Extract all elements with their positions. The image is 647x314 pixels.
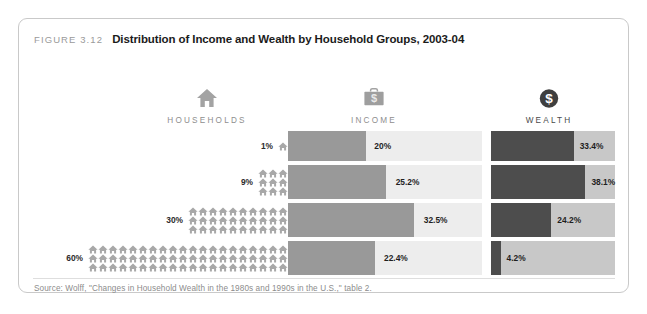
house-icon-grid <box>88 245 288 272</box>
house-icon-row <box>188 216 288 225</box>
households-pictogram-9: 9% <box>241 165 288 199</box>
house-icon-row <box>258 169 288 178</box>
table-row: 9% 25.2% 38.1% <box>19 165 630 199</box>
svg-text:$: $ <box>545 91 553 106</box>
chart-rows: 1% 20% 33.4% 9% 25.2% <box>19 131 630 271</box>
income-bar-track: 25.2% <box>288 165 482 199</box>
table-row: 30% 32.5% 24.2% <box>19 203 630 237</box>
households-percent-label: 30% <box>166 215 183 225</box>
income-bar-track: 32.5% <box>288 203 482 237</box>
wealth-bar-fill <box>491 241 501 275</box>
house-icon-row <box>88 263 288 272</box>
table-row: 1% 20% 33.4% <box>19 131 630 161</box>
wealth-bar-value: 38.1% <box>591 177 615 187</box>
figure-header: FIGURE 3.12 Distribution of Income and W… <box>34 33 464 45</box>
wealth-bar-track: 4.2% <box>491 241 615 275</box>
house-icon-row <box>88 254 288 263</box>
house-icon-row <box>278 142 288 151</box>
income-bar-value: 22.4% <box>384 253 408 263</box>
wealth-bar-fill <box>491 131 574 161</box>
households-percent-label: 9% <box>241 177 253 187</box>
figure-number: FIGURE 3.12 <box>34 34 103 45</box>
income-bar-value: 20% <box>374 141 391 151</box>
column-label-income: INCOME <box>299 116 449 125</box>
house-icon-row <box>188 207 288 216</box>
wealth-bar-track: 24.2% <box>491 203 615 237</box>
wealth-bar-value: 33.4% <box>580 141 604 151</box>
house-icon-row <box>258 187 288 196</box>
house-icon-row <box>258 178 288 187</box>
house-icon-row <box>188 225 288 234</box>
table-row: 60% 22.4% 4.2% <box>19 241 630 275</box>
source-note: Source: Wolff, "Changes in Household Wea… <box>34 284 372 293</box>
wealth-bar-track: 33.4% <box>491 131 615 161</box>
circle-dollar-icon: $ <box>474 85 624 109</box>
households-percent-label: 60% <box>66 253 83 263</box>
house-icon <box>132 85 282 109</box>
wealth-bar-track: 38.1% <box>491 165 615 199</box>
column-label-wealth: WEALTH <box>474 116 624 125</box>
income-bar-value: 25.2% <box>396 177 420 187</box>
house-icon-grid <box>188 207 288 234</box>
column-header-income: $ INCOME <box>299 85 449 125</box>
wealth-bar-value: 24.2% <box>557 215 581 225</box>
income-bar-track: 20% <box>288 131 482 161</box>
house-icon-row <box>88 245 288 254</box>
households-percent-label: 1% <box>261 141 273 151</box>
wealth-bar-value: 4.2% <box>507 253 526 263</box>
income-bar-fill <box>288 131 366 161</box>
income-bar-value: 32.5% <box>424 215 448 225</box>
households-pictogram-30: 30% <box>166 203 288 237</box>
households-pictogram-60: 60% <box>66 241 288 275</box>
house-icon-grid <box>258 169 288 196</box>
figure-title: Distribution of Income and Wealth by Hou… <box>112 33 464 45</box>
figure-panel: FIGURE 3.12 Distribution of Income and W… <box>18 18 629 293</box>
house-icon-grid <box>278 142 288 151</box>
briefcase-dollar-icon: $ <box>299 85 449 109</box>
svg-text:$: $ <box>371 92 377 104</box>
column-label-households: HOUSEHOLDS <box>132 116 282 125</box>
wealth-bar-fill <box>491 203 551 237</box>
households-pictogram-1: 1% <box>261 131 288 161</box>
column-header-households: HOUSEHOLDS <box>132 85 282 125</box>
income-bar-fill <box>288 203 414 237</box>
footer-divider <box>33 278 615 279</box>
income-bar-fill <box>288 165 386 199</box>
income-bar-track: 22.4% <box>288 241 482 275</box>
income-bar-fill <box>288 241 375 275</box>
column-header-wealth: $ WEALTH <box>474 85 624 125</box>
wealth-bar-fill <box>491 165 585 199</box>
